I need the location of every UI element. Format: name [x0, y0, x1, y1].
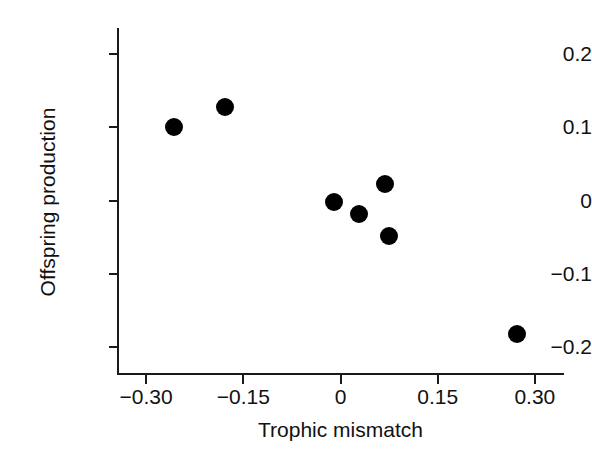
x-axis-tick — [534, 375, 536, 384]
y-axis-tick-label: −0.2 — [488, 336, 592, 357]
y-axis-tick-label: 0.2 — [488, 43, 592, 64]
x-axis-tick — [340, 375, 342, 384]
data-point — [350, 205, 368, 223]
data-point — [325, 193, 343, 211]
y-axis-tick — [109, 273, 118, 275]
y-axis-title: Offspring production — [36, 72, 60, 332]
y-axis-tick — [109, 346, 118, 348]
x-axis-title: Trophic mismatch — [117, 418, 564, 442]
y-axis-tick — [109, 53, 118, 55]
y-axis-tick — [109, 200, 118, 202]
x-axis-tick — [242, 375, 244, 384]
x-axis-tick-label: 0.30 — [475, 386, 592, 407]
data-point — [380, 227, 398, 245]
y-axis-tick — [109, 126, 118, 128]
y-axis-tick-label: 0 — [488, 190, 592, 211]
x-axis-tick — [437, 375, 439, 384]
data-point — [216, 98, 234, 116]
y-axis-tick-label: −0.1 — [488, 263, 592, 284]
x-axis-tick — [145, 375, 147, 384]
scatter-plot-figure: 0.20.10−0.1−0.2 −0.30−0.1500.150.30 Offs… — [0, 0, 592, 460]
data-point — [165, 118, 183, 136]
data-point — [376, 175, 394, 193]
y-axis-tick-label: 0.1 — [488, 116, 592, 137]
